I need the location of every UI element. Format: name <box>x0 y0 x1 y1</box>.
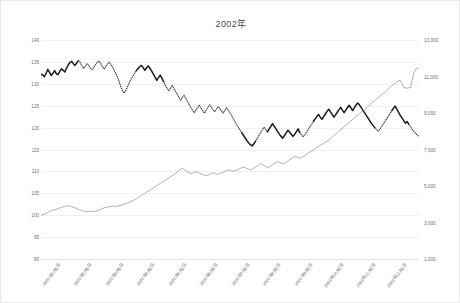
x-axis-tick: 2002年1月1日 <box>40 262 61 287</box>
x-axis-tick: 2002年9月1日 <box>292 262 313 287</box>
x-axis-tick: 2002年4月1日 <box>135 262 156 287</box>
x-axis-tick: 2002年2月1日 <box>72 262 93 287</box>
x-axis-tick: 2002年3月1日 <box>103 262 124 287</box>
x-axis-tick: 2002年10月1日 <box>322 262 345 289</box>
x-axis-tick: 2002年8月1日 <box>261 262 282 287</box>
x-axis-tick: 2002年5月1日 <box>166 262 187 287</box>
x-axis-tick: 2002年7月1日 <box>229 262 250 287</box>
x-axis-tick: 2002年6月1日 <box>198 262 219 287</box>
chart-container: 2002年 1401351301251201151101051009590 13… <box>0 0 460 303</box>
x-axis-tick: 2002年12月1日 <box>385 262 408 289</box>
x-axis: 2002年1月1日2002年2月1日2002年3月1日2002年4月1日2002… <box>1 1 460 303</box>
x-axis-tick: 2002年11月1日 <box>354 262 376 288</box>
